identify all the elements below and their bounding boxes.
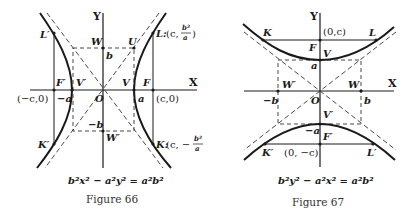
label-U: U	[128, 36, 138, 47]
label-neg-a: −a	[305, 125, 320, 136]
caption-67: Figure 67	[292, 196, 344, 208]
caption-66: Figure 66	[86, 193, 138, 205]
label-K-num: b²	[194, 134, 202, 143]
label-V-prime: V′	[323, 109, 334, 120]
label-O: O	[95, 93, 104, 104]
label-L: L	[368, 27, 376, 38]
hyperbola-figures: Y X L′ L: (c, b² a ) W U b F′ V′ V F (−c…	[0, 0, 411, 219]
label-K-coord: (c, −	[166, 139, 190, 150]
label-L-prime: L′	[366, 147, 377, 158]
label-W: W	[348, 79, 361, 90]
label-neg-b: −b	[88, 119, 103, 130]
label-neg-c: (−c,0)	[17, 93, 48, 104]
label-focus-top: (0,c)	[323, 26, 346, 37]
y-axis-label: Y	[309, 10, 318, 23]
label-W: W	[91, 36, 104, 47]
label-b: b	[364, 95, 371, 106]
label-c: (c,0)	[156, 93, 179, 104]
figure-66: Y X L′ L: (c, b² a ) W U b F′ V′ V F (−c…	[17, 10, 203, 205]
label-F: F	[142, 77, 151, 88]
label-L-close: )	[192, 28, 196, 39]
label-F: F	[308, 42, 317, 53]
label-V: V	[122, 77, 131, 88]
label-L-prime: L′	[39, 29, 50, 40]
label-neg-a: −a	[57, 93, 72, 104]
figure-67: Y X K (0,c) L F V a W′ W −b O b V′ −a F′…	[243, 10, 397, 208]
label-V-prime: V′	[76, 77, 87, 88]
label-F-prime: F′	[322, 131, 333, 142]
label-K-prime: K′	[261, 147, 274, 158]
label-L-num: b²	[182, 23, 190, 32]
label-O: O	[311, 95, 320, 106]
label-focus-bottom: (0, −c)	[284, 147, 319, 158]
label-L-coord: (c,	[166, 28, 179, 39]
label-a: a	[311, 60, 317, 71]
x-axis-label: X	[388, 77, 397, 90]
label-K-prime: K′	[37, 139, 50, 150]
label-W-prime: W′	[282, 79, 296, 90]
label-W-prime: W′	[106, 132, 120, 143]
label-V: V	[323, 48, 332, 59]
label-L-den: a	[183, 33, 188, 42]
label-neg-b: −b	[263, 95, 278, 106]
label-a: a	[138, 93, 144, 104]
equation-66: b²x² − a²y² = a²b²	[68, 175, 164, 186]
label-b: b	[106, 50, 113, 61]
equation-67: b²y² − a²x² = a²b²	[278, 175, 374, 186]
x-axis-label: X	[189, 76, 198, 89]
label-F-prime: F′	[55, 77, 66, 88]
y-axis-label: Y	[92, 10, 101, 23]
label-K: K	[262, 27, 273, 38]
label-K-den: a	[195, 144, 200, 153]
